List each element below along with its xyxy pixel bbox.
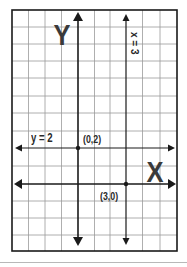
arrow-down-icon bbox=[123, 238, 130, 245]
point-label-3-0: (3,0) bbox=[100, 190, 118, 202]
arrow-up-icon bbox=[123, 14, 130, 21]
point-3-0 bbox=[124, 182, 128, 186]
line-label-y-equals-2: y = 2 bbox=[31, 131, 53, 145]
point-label-0-2: (0,2) bbox=[83, 133, 101, 145]
arrow-down-icon bbox=[73, 237, 83, 246]
arrow-left-icon bbox=[14, 179, 22, 189]
arrow-right-icon bbox=[168, 179, 176, 189]
arrow-up-icon bbox=[73, 12, 83, 21]
y-axis-label: Y bbox=[54, 18, 71, 52]
point-0-2 bbox=[76, 146, 80, 150]
x-axis-label: X bbox=[147, 155, 164, 189]
bottom-divider bbox=[0, 262, 187, 263]
line-y-equals-2 bbox=[15, 145, 175, 152]
arrow-left-icon bbox=[15, 145, 22, 152]
y-axis bbox=[73, 12, 83, 246]
line-label-x-equals-3: x = 3 bbox=[129, 32, 140, 55]
arrow-right-icon bbox=[168, 145, 175, 152]
